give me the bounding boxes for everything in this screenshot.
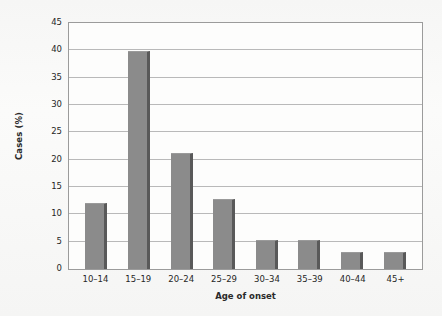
bar[interactable]	[128, 51, 150, 269]
y-axis-tick-label: 25	[36, 126, 62, 136]
bar[interactable]	[171, 153, 193, 269]
bar[interactable]	[85, 203, 107, 269]
x-axis-tick-labels: 10–1415–1920–2425–2930–3435–3940–4445+	[68, 274, 423, 290]
bar-slot	[331, 23, 374, 269]
bar-chart-figure: Cases (%) 051015202530354045 10–1415–192…	[0, 0, 442, 316]
bar[interactable]	[384, 252, 406, 269]
bar-slot	[160, 23, 203, 269]
bar[interactable]	[341, 252, 363, 269]
bar-slot	[373, 23, 416, 269]
y-axis-tick-label: 15	[36, 181, 62, 191]
bar[interactable]	[298, 240, 320, 269]
y-axis-tick-label: 10	[36, 208, 62, 218]
x-axis-tick-label: 15–19	[117, 274, 160, 290]
y-axis-tick-label: 40	[36, 44, 62, 54]
y-axis-tick-label: 45	[36, 17, 62, 27]
bar[interactable]	[213, 199, 235, 269]
y-axis-tick-label: 35	[36, 72, 62, 82]
y-axis-tick-label: 20	[36, 154, 62, 164]
bar-slot	[246, 23, 289, 269]
y-axis-title-text: Cases (%)	[14, 112, 24, 160]
x-axis-tick-label: 25–29	[203, 274, 246, 290]
y-axis-tick-label: 30	[36, 99, 62, 109]
y-axis-tick-label: 0	[36, 263, 62, 273]
x-axis-tick-label: 40–44	[331, 274, 374, 290]
bar-slot	[118, 23, 161, 269]
bar-slot	[288, 23, 331, 269]
bar-slot	[75, 23, 118, 269]
x-axis-tick-label: 20–24	[160, 274, 203, 290]
x-axis-tick-label: 10–14	[74, 274, 117, 290]
y-axis-tick-label: 5	[36, 236, 62, 246]
x-axis-tick-label: 30–34	[246, 274, 289, 290]
x-axis-tick-label: 45+	[374, 274, 417, 290]
x-axis-title: Age of onset	[68, 291, 423, 301]
bar-series	[69, 23, 422, 269]
x-axis-tick-label: 35–39	[288, 274, 331, 290]
bar-slot	[203, 23, 246, 269]
bar[interactable]	[256, 240, 278, 269]
plot-area	[68, 22, 423, 270]
y-axis-title: Cases (%)	[8, 0, 30, 272]
